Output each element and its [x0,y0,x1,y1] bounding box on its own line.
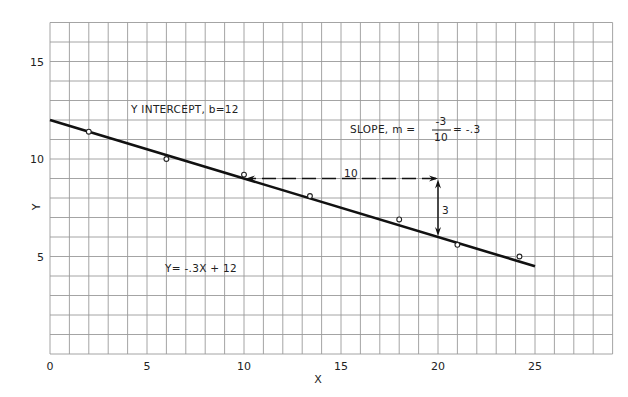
x-tick-label: 0 [47,360,54,373]
run-label: 10 [344,167,358,179]
data-point [164,157,169,162]
x-tick-label: 20 [431,360,445,373]
data-points [86,129,521,259]
equation-annotation: Y= -.3X + 12 [164,262,237,274]
data-point [242,172,247,177]
y-tick-label: 10 [30,153,44,166]
x-tick-label: 10 [237,360,251,373]
slope-label: SLOPE, m = [350,123,415,135]
y-tick-label: 5 [37,251,44,264]
regression-chart: 051015202551015 X Y Y INTERCEPT, b=12 SL… [0,0,628,397]
slope-denominator: 10 [434,131,448,143]
fit-line [50,120,535,266]
x-tick-label: 5 [144,360,151,373]
data-point [86,129,91,134]
data-point [308,194,313,199]
slope-numerator: -3 [435,115,446,127]
tick-labels: 051015202551015 [30,56,542,374]
data-point [455,242,460,247]
intercept-annotation: Y INTERCEPT, b=12 [130,103,239,115]
rise-label: 3 [442,204,449,216]
x-tick-label: 15 [334,360,348,373]
x-tick-label: 25 [528,360,542,373]
y-tick-label: 15 [30,56,44,69]
grid [50,23,613,355]
data-point [517,254,522,259]
regression-line [50,120,535,266]
y-axis-label: Y [30,203,43,211]
x-axis-label: X [314,373,322,386]
slope-result: = -.3 [453,123,480,135]
slope-arrows [246,176,441,237]
data-point [397,217,402,222]
